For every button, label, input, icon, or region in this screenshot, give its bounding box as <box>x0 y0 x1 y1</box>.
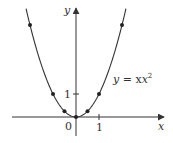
parabola-chart: y x 0 1 1 y = xx2 <box>0 0 173 143</box>
data-point <box>97 92 101 96</box>
data-point <box>51 92 55 96</box>
data-point <box>86 109 90 113</box>
x-axis-label: x <box>158 120 165 133</box>
data-point <box>63 109 67 113</box>
x-tick-label-1: 1 <box>96 121 103 134</box>
y-tick-label-1: 1 <box>64 88 71 101</box>
origin-label: 0 <box>65 120 72 133</box>
data-point <box>120 23 124 27</box>
curve-label: y = xx2 <box>112 72 152 86</box>
y-axis-label: y <box>63 4 71 17</box>
data-point <box>28 23 32 27</box>
data-point <box>74 115 78 119</box>
